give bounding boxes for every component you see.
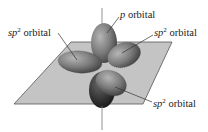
sp2-orbital-diagram bbox=[0, 0, 208, 132]
label-sp2-orbital-bottom: sp2 orbital bbox=[153, 98, 196, 110]
label-sp2-orbital-right: sp2 orbital bbox=[154, 27, 197, 39]
label-sp2-orbital-left: sp2 orbital bbox=[8, 27, 51, 39]
label-p-orbital: p orbital bbox=[120, 9, 155, 21]
